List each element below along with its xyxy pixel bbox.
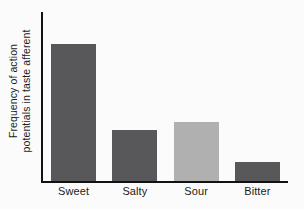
x-axis-label-bitter: Bitter: [222, 185, 292, 197]
y-axis-label-line-2: potentials in taste afferent: [20, 30, 33, 153]
x-axis-line: [41, 181, 288, 183]
bar-sweet[interactable]: [51, 44, 96, 181]
bar-slot: [51, 12, 96, 181]
bar-slot: [174, 12, 219, 181]
x-axis-tick-labels: SweetSaltySourBitter: [43, 185, 288, 205]
bar-bitter[interactable]: [235, 162, 280, 181]
bar-sour[interactable]: [174, 122, 219, 181]
y-axis-label: Frequency of action potentials in taste …: [0, 0, 40, 182]
x-axis-label-sweet: Sweet: [39, 185, 109, 197]
y-axis-label-line-1: Frequency of action: [7, 30, 20, 153]
x-axis-label-sour: Sour: [161, 185, 231, 197]
y-axis-label-text: Frequency of action potentials in taste …: [7, 30, 33, 153]
bar-slot: [112, 12, 157, 181]
bar-chart: Frequency of action potentials in taste …: [0, 0, 304, 209]
bar-salty[interactable]: [112, 130, 157, 181]
bar-slot: [235, 12, 280, 181]
x-axis-label-salty: Salty: [100, 185, 170, 197]
plot-area: [43, 12, 288, 181]
